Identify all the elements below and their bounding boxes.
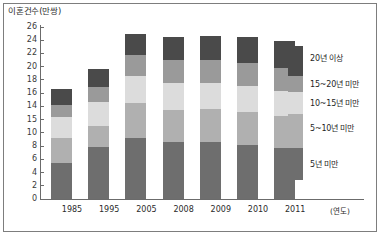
bar-2010 xyxy=(237,37,258,199)
y-axis-tick-mark xyxy=(40,53,44,54)
bar-segment xyxy=(163,110,184,142)
bar-segment xyxy=(51,138,72,162)
bar-segment xyxy=(125,103,146,138)
y-axis-tick-label: 6 xyxy=(32,154,37,164)
y-axis-tick-mark xyxy=(40,66,44,67)
y-axis-title: 이혼건수(만쌍) xyxy=(8,4,61,16)
bar-segment xyxy=(51,163,72,199)
y-axis-tick-label: 16 xyxy=(27,88,37,98)
y-axis-tick: 8 xyxy=(0,141,46,151)
y-axis-tick-label: 26 xyxy=(27,22,37,32)
y-axis-tick-mark xyxy=(40,40,44,41)
bar-segment xyxy=(237,37,258,63)
bar-segment xyxy=(237,63,258,86)
bar-segment xyxy=(237,145,258,199)
y-axis-tick-mark xyxy=(40,159,44,160)
y-axis-tick-label: 14 xyxy=(27,101,37,111)
y-axis-tick-mark xyxy=(40,27,44,28)
legend-label: 5년 미만 xyxy=(310,158,338,169)
legend-swatch xyxy=(288,148,303,180)
bar-segment xyxy=(163,60,184,82)
bar-segment xyxy=(51,117,72,138)
y-axis-tick: 0 xyxy=(0,194,46,204)
y-axis-tick: 10 xyxy=(0,128,46,138)
y-axis-tick: 15 xyxy=(0,115,46,125)
x-axis-tick-label: 2011 xyxy=(265,205,325,214)
legend-swatch xyxy=(288,76,303,92)
y-axis-tick-mark xyxy=(40,185,44,186)
y-axis-tick-label: 22 xyxy=(27,48,37,58)
bar-segment xyxy=(88,147,109,199)
y-axis-tick-label: 8 xyxy=(32,141,37,151)
legend-label: 20년 이상 xyxy=(310,52,343,63)
y-axis-tick: 6 xyxy=(0,154,46,164)
bar-segment xyxy=(88,87,109,102)
y-axis-tick-mark xyxy=(40,106,44,107)
bar-segment xyxy=(163,142,184,199)
bar-segment xyxy=(88,69,109,87)
legend-swatch xyxy=(288,46,303,76)
y-axis-tick: 16 xyxy=(0,88,46,98)
y-axis-tick-label: 10 xyxy=(27,128,37,138)
bar-2005 xyxy=(125,34,146,199)
bar-segment xyxy=(51,105,72,117)
y-axis-tick: 14 xyxy=(0,101,46,111)
bar-segment xyxy=(163,37,184,60)
bar-segment xyxy=(237,86,258,112)
bar-segment xyxy=(125,34,146,55)
y-axis-tick-mark xyxy=(40,172,44,173)
legend-swatch xyxy=(288,114,303,148)
y-axis-tick-mark xyxy=(40,79,44,80)
divorce-count-stacked-bar-chart: 이혼건수(만쌍) 26242220181614151086420 1985199… xyxy=(0,0,380,235)
bar-segment xyxy=(125,138,146,199)
legend-label: 15~20년 미만 xyxy=(310,78,359,89)
y-axis-tick-mark xyxy=(40,199,44,200)
bar-2009 xyxy=(200,36,221,199)
bar-segment xyxy=(237,112,258,145)
y-axis-tick-mark xyxy=(40,146,44,147)
x-axis-unit-label: (연도) xyxy=(330,205,350,216)
bar-1985 xyxy=(51,89,72,199)
y-axis-tick-label: 4 xyxy=(32,168,37,178)
y-axis-tick: 4 xyxy=(0,168,46,178)
y-axis-tick: 20 xyxy=(0,62,46,72)
bar-1995 xyxy=(88,69,109,199)
x-axis-line xyxy=(40,199,364,200)
bar-segment xyxy=(200,83,221,109)
y-axis-tick-label: 18 xyxy=(27,75,37,85)
bar-segment xyxy=(200,109,221,142)
y-axis-tick: 18 xyxy=(0,75,46,85)
y-axis-tick-mark xyxy=(40,93,44,94)
y-axis-tick: 24 xyxy=(0,35,46,45)
legend-label: 5~10년 미만 xyxy=(310,122,354,133)
y-axis-tick-label: 2 xyxy=(32,181,37,191)
y-axis-tick-label: 24 xyxy=(27,35,37,45)
bar-segment xyxy=(163,83,184,110)
y-axis-tick-mark xyxy=(40,132,44,133)
y-axis-tick-mark xyxy=(40,119,44,120)
y-axis-tick-label: 20 xyxy=(27,62,37,72)
y-axis-tick: 26 xyxy=(0,22,46,32)
bar-segment xyxy=(200,36,221,60)
y-axis-tick: 2 xyxy=(0,181,46,191)
y-axis-tick-label: 15 xyxy=(27,115,37,125)
bar-segment xyxy=(200,60,221,82)
bar-segment xyxy=(125,55,146,76)
bar-segment xyxy=(88,126,109,147)
bar-segment xyxy=(88,102,109,126)
bar-segment xyxy=(51,89,72,106)
legend-swatch xyxy=(288,92,303,114)
legend-label: 10~15년 미만 xyxy=(310,97,359,108)
bar-segment xyxy=(125,76,146,103)
y-axis-tick: 22 xyxy=(0,48,46,58)
y-axis-tick-label: 0 xyxy=(32,194,37,204)
bar-segment xyxy=(200,142,221,199)
bar-2008 xyxy=(163,37,184,199)
